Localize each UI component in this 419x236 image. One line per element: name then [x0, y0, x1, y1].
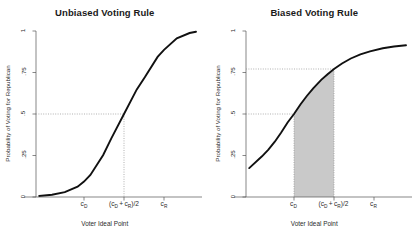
panel-biased: Biased Voting Rule Probability of Voting… — [210, 0, 419, 236]
x-tick-midpoint-biased: (cD + cR)/2 — [319, 200, 349, 209]
x-axis-label-biased: Voter Ideal Point — [210, 220, 419, 227]
y-axis-biased — [242, 31, 246, 197]
x-tick-midpoint-unbiased: (cD + cR)/2 — [109, 200, 139, 209]
plot-area-biased — [210, 0, 419, 236]
x-tick-cd-unbiased: cD — [81, 200, 88, 209]
figure-two-panel-voting-rules: Unbiased Voting Rule Probability of Voti… — [0, 0, 419, 236]
panel-unbiased: Unbiased Voting Rule Probability of Voti… — [0, 0, 210, 236]
x-tick-cr-biased: cR — [370, 200, 377, 209]
x-tick-cd-biased: cD — [290, 200, 297, 209]
x-tick-cr-unbiased: cR — [161, 200, 168, 209]
x-axis-label-unbiased: Voter Ideal Point — [0, 220, 210, 227]
plot-area-unbiased — [0, 0, 210, 236]
y-axis-unbiased — [33, 31, 37, 197]
